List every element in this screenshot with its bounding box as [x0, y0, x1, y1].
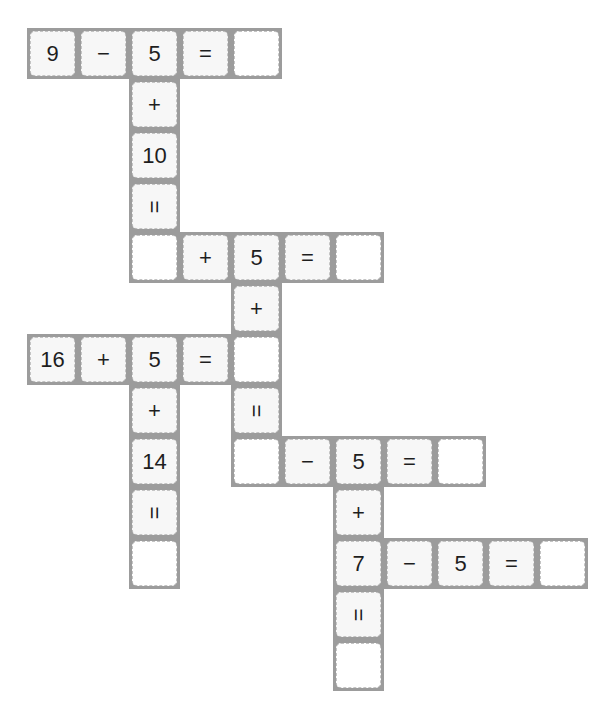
- operator-sign: −: [403, 553, 416, 575]
- cell-number: 16: [27, 334, 78, 385]
- cell-inner: =: [387, 439, 432, 484]
- number-value: 5: [352, 451, 364, 473]
- answer-cell[interactable]: [333, 640, 384, 691]
- answer-input[interactable]: [235, 440, 278, 483]
- cell-operator: +: [180, 232, 231, 283]
- number-value: 9: [46, 43, 58, 65]
- answer-cell[interactable]: [231, 436, 282, 487]
- answer-input[interactable]: [541, 542, 584, 585]
- cell-inner: 16: [30, 337, 75, 382]
- cell-inner: [132, 235, 177, 280]
- answer-input[interactable]: [133, 236, 176, 279]
- cell-inner: +: [132, 388, 177, 433]
- cell-operator: −: [78, 28, 129, 79]
- cell-inner: [234, 439, 279, 484]
- vertical-equals-sign: =: [245, 404, 267, 417]
- cell-number: 5: [333, 436, 384, 487]
- cell-operator: +: [78, 334, 129, 385]
- cell-inner: [540, 541, 585, 586]
- cell-inner: 5: [438, 541, 483, 586]
- number-value: 10: [142, 145, 166, 167]
- cell-number: 10: [129, 130, 180, 181]
- cell-inner: 14: [132, 439, 177, 484]
- answer-cell[interactable]: [435, 436, 486, 487]
- cell-inner: =: [336, 592, 381, 637]
- cell-inner: 7: [336, 541, 381, 586]
- crossword-math-puzzle: 9−5=+10=+5=+16+5=+=14−5==+7−5==: [0, 0, 612, 720]
- operator-sign: +: [199, 247, 212, 269]
- operator-sign: −: [97, 43, 110, 65]
- cell-inner: [234, 31, 279, 76]
- cell-operator: +: [129, 385, 180, 436]
- cell-operator: +: [129, 79, 180, 130]
- cell-inner: 5: [132, 31, 177, 76]
- operator-sign: −: [301, 451, 314, 473]
- equals-sign: =: [199, 43, 212, 65]
- answer-input[interactable]: [133, 542, 176, 585]
- cell-equals-vertical: =: [129, 487, 180, 538]
- number-value: 5: [148, 43, 160, 65]
- cell-equals-vertical: =: [231, 385, 282, 436]
- cell-inner: =: [285, 235, 330, 280]
- cell-number: 14: [129, 436, 180, 487]
- cell-inner: =: [234, 388, 279, 433]
- answer-cell[interactable]: [537, 538, 588, 589]
- cell-equals-vertical: =: [129, 181, 180, 232]
- cell-inner: 5: [234, 235, 279, 280]
- answer-cell[interactable]: [129, 538, 180, 589]
- answer-input[interactable]: [337, 644, 380, 687]
- equals-sign: =: [505, 553, 518, 575]
- cell-equals-vertical: =: [333, 589, 384, 640]
- cell-inner: =: [183, 337, 228, 382]
- cell-inner: −: [387, 541, 432, 586]
- answer-cell[interactable]: [129, 232, 180, 283]
- cell-number: 5: [231, 232, 282, 283]
- answer-cell[interactable]: [231, 334, 282, 385]
- cell-inner: =: [489, 541, 534, 586]
- answer-cell[interactable]: [231, 28, 282, 79]
- answer-input[interactable]: [235, 338, 278, 381]
- cell-inner: =: [183, 31, 228, 76]
- answer-input[interactable]: [235, 32, 278, 75]
- number-value: 14: [142, 451, 166, 473]
- operator-sign: +: [148, 94, 161, 116]
- vertical-equals-sign: =: [143, 200, 165, 213]
- cell-operator: −: [384, 538, 435, 589]
- cell-inner: +: [336, 490, 381, 535]
- cell-inner: [234, 337, 279, 382]
- cell-equals: =: [282, 232, 333, 283]
- cell-inner: [438, 439, 483, 484]
- vertical-equals-sign: =: [347, 608, 369, 621]
- cell-inner: −: [285, 439, 330, 484]
- cell-operator: +: [333, 487, 384, 538]
- answer-input[interactable]: [337, 236, 380, 279]
- operator-sign: +: [148, 400, 161, 422]
- cell-number: 5: [435, 538, 486, 589]
- operator-sign: +: [97, 349, 110, 371]
- operator-sign: +: [250, 298, 263, 320]
- cell-number: 5: [129, 28, 180, 79]
- cell-inner: +: [183, 235, 228, 280]
- cell-inner: +: [81, 337, 126, 382]
- cell-equals: =: [180, 28, 231, 79]
- cell-inner: +: [132, 82, 177, 127]
- cell-inner: =: [132, 490, 177, 535]
- cell-inner: 5: [336, 439, 381, 484]
- number-value: 5: [454, 553, 466, 575]
- number-value: 5: [250, 247, 262, 269]
- answer-cell[interactable]: [333, 232, 384, 283]
- cell-number: 7: [333, 538, 384, 589]
- answer-input[interactable]: [439, 440, 482, 483]
- equals-sign: =: [199, 349, 212, 371]
- cell-inner: 5: [132, 337, 177, 382]
- cell-operator: +: [231, 283, 282, 334]
- cell-inner: +: [234, 286, 279, 331]
- number-value: 5: [148, 349, 160, 371]
- cell-inner: =: [132, 184, 177, 229]
- cell-inner: [132, 541, 177, 586]
- operator-sign: +: [352, 502, 365, 524]
- cell-inner: [336, 235, 381, 280]
- cell-number: 5: [129, 334, 180, 385]
- cell-inner: [336, 643, 381, 688]
- cell-inner: −: [81, 31, 126, 76]
